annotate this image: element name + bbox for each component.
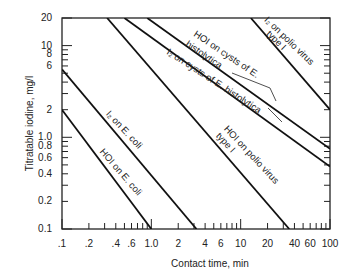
x-tick-label: 20: [253, 238, 283, 249]
x-tick-label: 2: [163, 238, 193, 249]
x-tick-label: .1: [47, 238, 77, 249]
y-tick-label: 20: [22, 12, 52, 23]
x-tick-label: .2: [74, 238, 104, 249]
y-tick-label: 0.2: [22, 195, 52, 206]
series-line-4: [147, 18, 330, 149]
series-line-0: [62, 110, 151, 229]
x-tick-label: 100: [315, 238, 345, 249]
y-axis-title: Titratable iodine, mg/l: [24, 59, 35, 189]
series-line-1: [62, 69, 196, 229]
iodine-contact-time-chart: 20108621.00.80.60.40.20.1 .1.2.4.61.0246…: [0, 0, 352, 279]
y-tick-label: 0.1: [22, 223, 52, 234]
x-tick-label: 10: [226, 238, 256, 249]
x-axis-title: Contact time, min: [140, 258, 280, 269]
series-line-5: [251, 18, 330, 110]
x-tick-label: 1.0: [136, 238, 166, 249]
